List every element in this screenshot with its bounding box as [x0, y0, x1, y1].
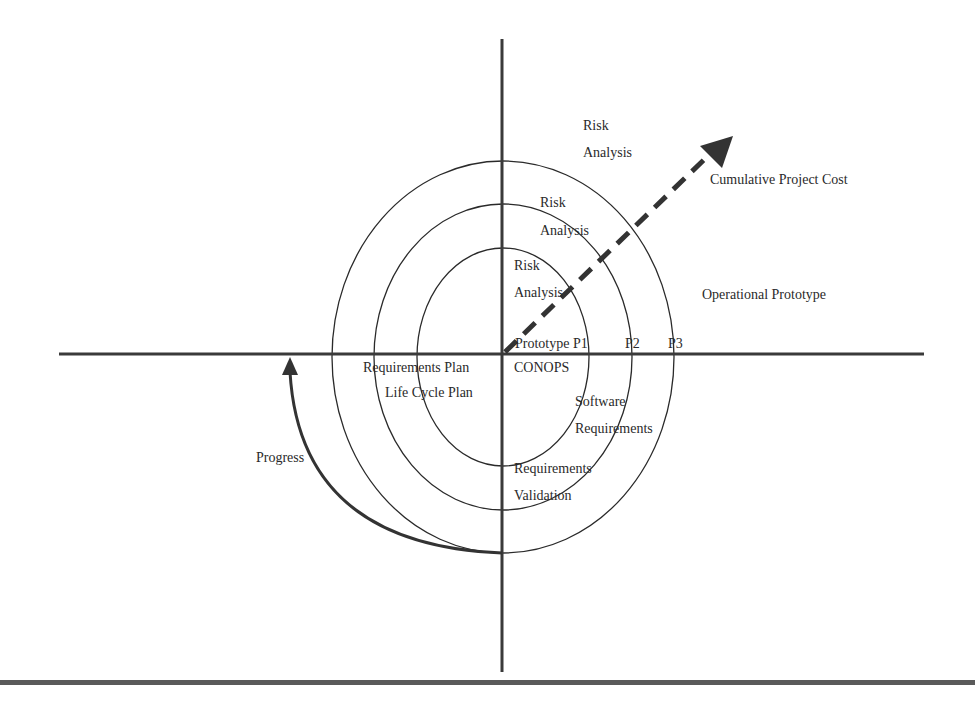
- prototype-p1-label: Prototype P1: [515, 336, 588, 352]
- risk-analysis-outer-label: Analysis: [583, 145, 632, 161]
- risk-analysis-middle-label: Analysis: [540, 223, 589, 239]
- requirements-plan-label: Requirements Plan: [363, 360, 469, 376]
- software-requirements-label: Software: [575, 394, 626, 410]
- cumulative-cost-label: Cumulative Project Cost: [710, 172, 848, 188]
- risk-analysis-inner-label: Risk: [514, 258, 540, 274]
- bottom-rule: [0, 680, 975, 685]
- risk-analysis-outer-label: Risk: [583, 118, 609, 134]
- life-cycle-plan-label: Life Cycle Plan: [385, 385, 473, 401]
- software-requirements-label: Requirements: [575, 421, 653, 437]
- requirements-validation-label: Requirements: [514, 461, 592, 477]
- p3-label: P3: [668, 336, 683, 352]
- spiral-model-diagram: [0, 0, 975, 717]
- operational-prototype-label: Operational Prototype: [702, 287, 826, 303]
- cumulative-cost-arrow: [505, 152, 712, 352]
- progress-label: Progress: [256, 450, 304, 466]
- risk-analysis-middle-label: Risk: [540, 195, 566, 211]
- p2-label: P2: [625, 336, 640, 352]
- conops-label: CONOPS: [514, 360, 569, 376]
- progress-arrowhead-icon: [282, 357, 298, 375]
- risk-analysis-inner-label: Analysis: [514, 285, 563, 301]
- requirements-validation-label: Validation: [514, 488, 572, 504]
- cumulative-cost-arrowhead-icon: [700, 136, 733, 168]
